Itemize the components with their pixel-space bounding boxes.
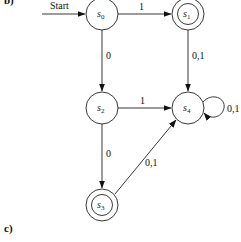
edge-label-s0-s1: 1 xyxy=(139,1,144,12)
state-s0: s0 xyxy=(86,0,118,30)
start-label: Start xyxy=(50,0,69,11)
state-s1-accepting: s1 xyxy=(172,0,204,30)
automaton-diagram: b) Start 1 0 0,1 1 0 0,1 0,1 s0 s1 s2 s4… xyxy=(0,0,241,242)
part-label-c: c) xyxy=(4,222,13,235)
edge-s4-self-loop xyxy=(203,97,224,117)
edge-label-s0-s2: 0 xyxy=(106,50,111,61)
edge-label-s1-s4: 0,1 xyxy=(192,50,205,61)
edge-label-s3-s4: 0,1 xyxy=(145,157,158,168)
part-label-b: b) xyxy=(4,0,14,7)
state-s4: s4 xyxy=(172,92,204,124)
edge-label-s2-s4: 1 xyxy=(140,95,145,106)
edge-label-s4-s4: 0,1 xyxy=(227,103,240,114)
state-s2: s2 xyxy=(86,92,118,124)
edge-label-s2-s3: 0 xyxy=(106,148,111,159)
state-s3-accepting: s3 xyxy=(86,189,118,221)
